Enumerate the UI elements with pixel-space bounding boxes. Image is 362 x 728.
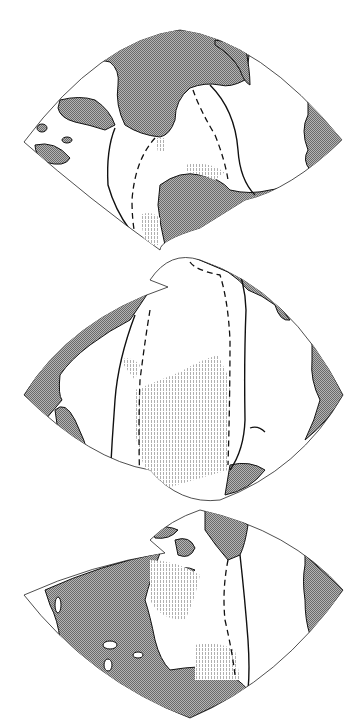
landmass-east-bottom — [304, 555, 344, 635]
lobe-top — [24, 30, 345, 265]
lobe-bottom — [24, 510, 343, 718]
interrupted-map — [0, 0, 362, 728]
map-canvas — [0, 0, 362, 728]
landmass-east-edge — [304, 100, 345, 170]
lobe-middle — [24, 248, 343, 501]
